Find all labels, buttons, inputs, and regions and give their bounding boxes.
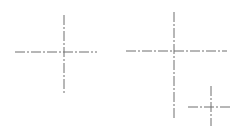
- centerline-cross-2: [126, 12, 227, 118]
- centerline-diagram: [0, 0, 244, 136]
- centerline-cross-1: [15, 15, 97, 93]
- centerline-cross-3: [188, 86, 231, 126]
